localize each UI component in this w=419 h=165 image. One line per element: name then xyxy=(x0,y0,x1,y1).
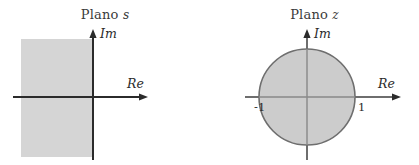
tick-label-positive-one: 1 xyxy=(358,100,365,114)
real-axis-arrowhead-icon xyxy=(139,93,148,100)
imaginary-axis-arrowhead-icon xyxy=(89,29,96,38)
panel-s-imaginary-axis-label: Im xyxy=(100,26,117,41)
panel-plano-z: Plano z Im Re -1 1 xyxy=(210,0,419,165)
plano-s-plot xyxy=(0,0,210,165)
real-axis-arrowhead-icon xyxy=(392,93,401,100)
imaginary-axis-arrowhead-icon xyxy=(303,29,310,38)
panel-z-imaginary-axis-label: Im xyxy=(314,26,331,41)
panel-plano-s: Plano s Im Re xyxy=(0,0,210,165)
panel-s-real-axis-label: Re xyxy=(127,76,144,91)
panel-z-real-axis-label: Re xyxy=(378,76,395,91)
tick-label-negative-one: -1 xyxy=(254,100,265,114)
stability-regions-figure: Plano s Im Re Plano z xyxy=(0,0,419,165)
